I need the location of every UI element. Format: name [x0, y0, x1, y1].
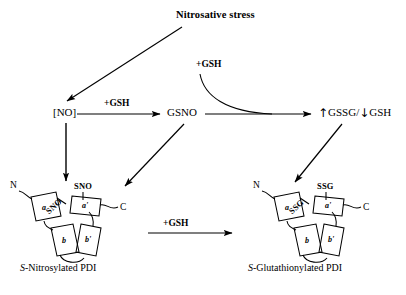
- edge-label-pdi-conversion: +GSH: [163, 219, 188, 229]
- right-pdi-linker-bpa: [332, 212, 336, 226]
- node-gssg-label: GSSG: [328, 106, 356, 118]
- pathway-diagram: Nitrosative stress [NO] +GSH GSNO +GSH ↑…: [0, 0, 406, 295]
- right-pdi-structure: [262, 191, 361, 262]
- left-pdi-c-tail: [100, 205, 118, 208]
- diagram-canvas: [0, 0, 406, 295]
- left-pdi-n-label: N: [10, 181, 17, 191]
- right-pdi-caption-rest: -Glutathionylated PDI: [253, 262, 342, 273]
- left-pdi-domain-b-label: b: [62, 237, 66, 245]
- left-pdi-domain-bprime-label: b': [85, 236, 91, 244]
- right-pdi-c-label: C: [363, 203, 369, 213]
- edge-label-no-to-gsno: +GSH: [104, 99, 129, 109]
- left-pdi-caption-rest: -Nitrosylated PDI: [25, 262, 96, 273]
- diagram-title: Nitrosative stress: [176, 10, 255, 21]
- right-pdi-site-aprime: SSG: [317, 182, 334, 191]
- left-pdi-structure: [19, 191, 118, 262]
- right-pdi-domain-b-label: b: [305, 237, 309, 245]
- right-pdi-domain-aprime-label: a': [325, 202, 331, 210]
- down-arrow-icon: ↓: [359, 106, 369, 120]
- left-pdi-linker-bpa: [89, 212, 93, 226]
- node-gsno: GSNO: [167, 107, 197, 118]
- edge-label-gsh-curve: +GSH: [196, 60, 221, 70]
- left-pdi-caption: S-Nitrosylated PDI: [20, 263, 96, 273]
- arrow-stress-to-no: [67, 27, 182, 101]
- node-gsh-label: GSH: [369, 106, 391, 118]
- right-pdi-n-label: N: [253, 181, 260, 191]
- left-pdi-c-label: C: [120, 203, 126, 213]
- node-no: [NO]: [53, 107, 76, 118]
- right-pdi-caption: S-Glutathionylated PDI: [248, 263, 342, 273]
- up-arrow-icon: ↑: [318, 106, 328, 120]
- right-pdi-domain-a-label: a: [285, 204, 289, 212]
- left-pdi-domain-aprime-label: a': [82, 202, 88, 210]
- left-pdi-domain-a-label: a: [42, 204, 46, 212]
- node-glutathione-balance: ↑GSSG/↓GSH: [318, 106, 391, 118]
- right-pdi-n-tail: [262, 191, 275, 199]
- arrow-gsno-to-left-pdi: [125, 124, 184, 186]
- left-pdi-site-aprime: SNO: [74, 182, 92, 191]
- right-pdi-c-tail: [343, 205, 361, 208]
- curve-gsh-input: [200, 74, 272, 114]
- right-pdi-domain-bprime-label: b': [328, 236, 334, 244]
- arrow-glutathione-to-right-pdi: [295, 124, 342, 182]
- left-pdi-n-tail: [19, 191, 32, 199]
